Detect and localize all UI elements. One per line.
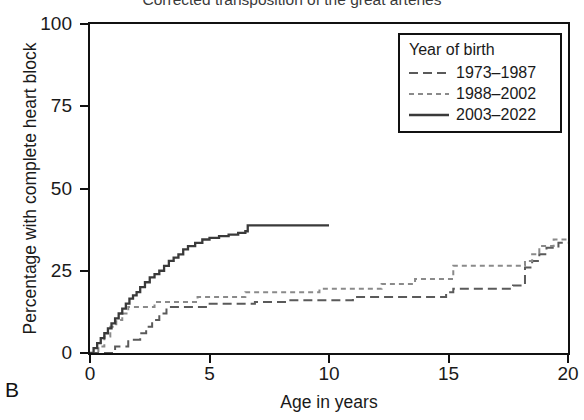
x-tick-label-0: 0: [70, 364, 110, 384]
y-tick-mark-100: [80, 23, 88, 25]
y-tick-mark-25: [80, 270, 88, 272]
y-tick-mark-0: [80, 352, 88, 354]
legend-entry-2003-2022[interactable]: 2003–2022: [400, 104, 560, 125]
series-line-2003-2022: [90, 225, 329, 353]
y-tick-label-100: 100: [12, 14, 72, 33]
series-line-1988-2002: [90, 239, 568, 353]
legend-swatch-long-dash-icon: [409, 67, 449, 79]
legend-entry-1988-2002[interactable]: 1988–2002: [400, 83, 560, 104]
legend-entries: 1973–19871988–20022003–2022: [400, 62, 560, 125]
legend: Year of birth 1973–19871988–20022003–202…: [398, 33, 562, 133]
x-tick-label-15: 15: [429, 364, 469, 384]
x-tick-mark-20: [567, 355, 569, 363]
y-tick-label-75: 75: [12, 96, 72, 115]
legend-swatch-short-dash-icon: [409, 88, 449, 100]
x-tick-label-10: 10: [309, 364, 349, 384]
x-tick-mark-0: [89, 355, 91, 363]
legend-label: 1973–1987: [456, 64, 536, 82]
figure-panel-b: Corrected transposition of the great art…: [0, 0, 584, 420]
series-line-1973-1987: [90, 243, 568, 353]
y-tick-label-50: 50: [12, 179, 72, 198]
legend-swatch-solid-icon: [409, 109, 449, 121]
x-tick-mark-5: [209, 355, 211, 363]
x-tick-mark-10: [328, 355, 330, 363]
legend-label: 1988–2002: [456, 85, 536, 103]
legend-label: 2003–2022: [456, 106, 536, 124]
panel-label: B: [5, 378, 19, 402]
y-tick-mark-75: [80, 105, 88, 107]
legend-entry-1973-1987[interactable]: 1973–1987: [400, 62, 560, 83]
chart-title: Corrected transposition of the great art…: [0, 0, 584, 9]
y-tick-label-0: 0: [12, 343, 72, 362]
y-tick-label-25: 25: [12, 261, 72, 280]
legend-title: Year of birth: [400, 40, 560, 62]
y-tick-mark-50: [80, 188, 88, 190]
x-tick-label-20: 20: [548, 364, 584, 384]
x-tick-label-5: 5: [190, 364, 230, 384]
x-axis-label: Age in years: [88, 392, 570, 413]
x-tick-mark-15: [448, 355, 450, 363]
